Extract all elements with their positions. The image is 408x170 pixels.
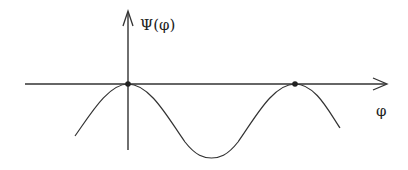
x-axis-label: φ (376, 102, 387, 120)
y-axis-label: Ψ(φ) (140, 16, 175, 34)
maximum-point-period (292, 81, 298, 87)
potential-diagram: Ψ(φ) φ (0, 0, 408, 170)
maximum-point-origin (125, 81, 131, 87)
potential-curve (75, 84, 340, 158)
